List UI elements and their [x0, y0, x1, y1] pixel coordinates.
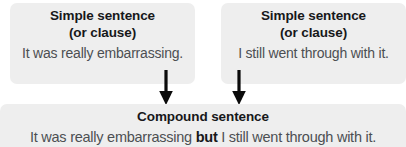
clause-heading-line2-left: (or clause)	[10, 24, 195, 41]
clause-example-left: It was really embarrassing.	[10, 44, 195, 63]
compound-sentence-text: It was really embarrassing but I still w…	[0, 127, 406, 147]
compound-sentence-diagram: Simple sentence (or clause) It was reall…	[0, 0, 406, 147]
clause-heading-line1-left: Simple sentence	[10, 8, 195, 24]
clause-heading-line2-right: (or clause)	[221, 24, 406, 41]
down-arrow-icon-left	[157, 70, 175, 106]
compound-part2: I still went through with it.	[217, 129, 376, 145]
clause-heading-line1-right: Simple sentence	[221, 8, 406, 24]
compound-sentence-box: Compound sentence It was really embarras…	[0, 104, 406, 147]
simple-clause-box-right: Simple sentence (or clause) I still went…	[221, 3, 406, 84]
down-arrow-icon-right	[230, 70, 248, 106]
compound-conjunction: but	[196, 129, 218, 145]
compound-part1: It was really embarrassing	[30, 129, 196, 145]
clause-example-right: I still went through with it.	[221, 44, 406, 63]
compound-heading: Compound sentence	[0, 108, 406, 125]
